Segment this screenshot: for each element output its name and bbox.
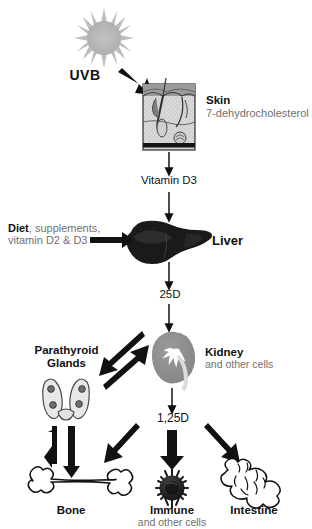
label-parathyroid-line2: Glands [24, 357, 109, 370]
label-diet-primary: Diet [8, 222, 29, 234]
label-skin: Skin 7-dehydrocholesterol [206, 94, 309, 119]
arrow-parathyroid-to-bone [63, 426, 80, 478]
label-parathyroid-glands: Parathyroid Glands [24, 344, 109, 370]
diagram-graphics-layer [0, 0, 312, 529]
label-vitamin-d3: Vitamin D3 [129, 174, 209, 187]
label-125d: 1,25D [143, 412, 203, 425]
label-skin-primary: Skin [206, 94, 309, 107]
label-parathyroid-line1: Parathyroid [24, 344, 109, 357]
label-bone: Bone [40, 504, 102, 517]
arrow-125d-to-immune [160, 430, 184, 470]
label-25d: 25D [142, 288, 198, 301]
label-immune-primary: Immune [128, 504, 216, 517]
sun-icon [74, 8, 134, 68]
kidney-icon [152, 332, 195, 390]
thyroid-parathyroid-icon [43, 379, 90, 420]
label-immune: Immune and other cells [128, 504, 216, 529]
label-diet-line1: Diet, supplements, [8, 222, 100, 234]
label-diet-secondary: , supplements, [29, 222, 101, 234]
arrow-bone-to-parathyroid [44, 426, 57, 468]
label-kidney-primary: Kidney [205, 346, 273, 359]
label-liver: Liver [212, 234, 243, 249]
label-intestine: Intestine [218, 504, 290, 517]
intestine-icon [221, 458, 280, 508]
label-diet: Diet, supplements, vitamin D2 & D3 [8, 222, 100, 247]
immune-cell-icon [156, 468, 188, 508]
label-diet-line2: vitamin D2 & D3 [8, 234, 100, 246]
label-uvb: UVB [54, 68, 116, 84]
vitamin-d-pathway-diagram: UVB Skin 7-dehydrocholesterol Vitamin D3… [0, 0, 312, 529]
arrow-125d-to-intestine [204, 423, 240, 463]
label-kidney: Kidney and other cells [205, 346, 273, 371]
label-kidney-secondary: and other cells [205, 359, 273, 371]
skin-histology-icon [143, 78, 195, 150]
arrow-125d-to-bone [104, 423, 140, 463]
bone-icon [28, 467, 132, 496]
liver-icon [127, 221, 213, 264]
label-immune-secondary: and other cells [128, 517, 216, 529]
label-skin-secondary: 7-dehydrocholesterol [206, 107, 309, 119]
